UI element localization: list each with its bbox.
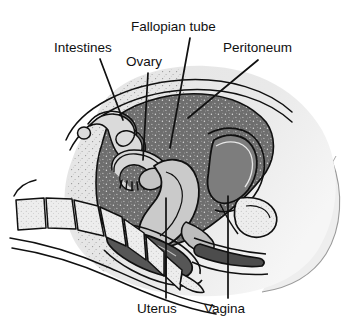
- label-ovary: Ovary: [126, 55, 162, 69]
- label-fallopian-tube: Fallopian tube: [131, 20, 216, 34]
- label-peritoneum: Peritoneum: [223, 41, 292, 55]
- label-vagina: Vagina: [204, 302, 245, 316]
- label-uterus: Uterus: [137, 302, 177, 316]
- figure-root: Fallopian tube Intestines Ovary Peritone…: [0, 0, 359, 326]
- label-intestines: Intestines: [54, 41, 112, 55]
